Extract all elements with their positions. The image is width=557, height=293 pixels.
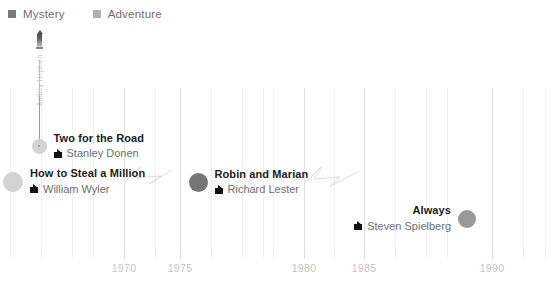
timeline-event-two-for-the-road[interactable]: Two for the RoadStanley Donen bbox=[32, 132, 145, 161]
axis-tick-label: 1975 bbox=[168, 262, 193, 274]
event-title: Always bbox=[412, 204, 451, 218]
event-bubble[interactable] bbox=[458, 210, 476, 228]
axis-tick bbox=[41, 250, 42, 257]
zigzag-connector-2 bbox=[304, 164, 364, 194]
timeline-chart: MysteryAdventure Audrey Hepburn Two for … bbox=[0, 0, 557, 293]
timeline-event-always[interactable]: AlwaysSteven Spielberg bbox=[354, 204, 476, 233]
axis-tick bbox=[93, 250, 94, 257]
event-bubble-wrap bbox=[32, 139, 47, 154]
axis-tick bbox=[10, 250, 11, 257]
legend-label: Adventure bbox=[108, 8, 162, 20]
axis-tick bbox=[334, 250, 335, 257]
axis-tick-label: 1985 bbox=[352, 262, 377, 274]
event-stem bbox=[39, 96, 40, 139]
event-director-name: Richard Lester bbox=[228, 182, 300, 196]
event-title: Robin and Marian bbox=[215, 168, 309, 182]
event-director-name: William Wyler bbox=[43, 182, 110, 196]
event-title: Two for the Road bbox=[54, 132, 145, 146]
square-swatch-icon bbox=[93, 10, 101, 18]
legend-label: Mystery bbox=[23, 8, 65, 20]
event-director-name: Stanley Donen bbox=[67, 146, 139, 160]
gridline bbox=[523, 88, 524, 250]
lighthouse-marker-icon bbox=[35, 30, 44, 49]
chart-legend: MysteryAdventure bbox=[8, 8, 190, 20]
axis-tick bbox=[523, 250, 524, 257]
axis-tick bbox=[545, 250, 546, 257]
event-bubble[interactable] bbox=[189, 173, 208, 192]
event-director: William Wyler bbox=[30, 182, 110, 196]
movie-camera-icon bbox=[215, 185, 224, 194]
gridline bbox=[545, 88, 546, 250]
axis-tick-label: 1980 bbox=[292, 262, 317, 274]
event-director: Stanley Donen bbox=[54, 146, 139, 160]
axis-tick-label: 1970 bbox=[112, 262, 137, 274]
axis-tick bbox=[211, 250, 212, 257]
axis-tick bbox=[72, 250, 73, 257]
timeline-event-how-to-steal-a-million[interactable]: How to Steal a MillionWilliam Wyler bbox=[3, 167, 145, 196]
square-swatch-icon bbox=[8, 10, 16, 18]
axis-tick bbox=[180, 250, 181, 259]
x-axis: 19701975198019851990 bbox=[0, 250, 557, 293]
axis-tick-label: 1990 bbox=[480, 262, 505, 274]
legend-item-mystery[interactable]: Mystery bbox=[8, 8, 65, 20]
event-bubble[interactable] bbox=[3, 172, 23, 192]
movie-camera-icon bbox=[54, 149, 63, 158]
axis-tick bbox=[426, 250, 427, 257]
axis-tick bbox=[242, 250, 243, 257]
event-bubble-center-dot bbox=[38, 145, 40, 147]
movie-camera-icon bbox=[354, 221, 363, 230]
event-text: How to Steal a MillionWilliam Wyler bbox=[30, 167, 145, 196]
event-title: How to Steal a Million bbox=[30, 167, 145, 181]
event-bubble-wrap bbox=[3, 172, 23, 192]
axis-tick bbox=[155, 250, 156, 257]
event-bubble-wrap bbox=[189, 173, 208, 192]
axis-tick bbox=[492, 250, 493, 259]
axis-tick bbox=[447, 250, 448, 257]
event-text: Robin and MarianRichard Lester bbox=[215, 168, 309, 197]
event-director: Richard Lester bbox=[215, 182, 300, 196]
legend-item-adventure[interactable]: Adventure bbox=[93, 8, 162, 20]
movie-camera-icon bbox=[30, 184, 39, 193]
axis-tick bbox=[364, 250, 365, 259]
axis-tick bbox=[263, 250, 264, 257]
axis-tick bbox=[395, 250, 396, 257]
event-bubble-wrap bbox=[458, 210, 476, 228]
timeline-event-robin-and-marian[interactable]: Robin and MarianRichard Lester bbox=[189, 168, 309, 197]
event-text: Two for the RoadStanley Donen bbox=[54, 132, 145, 161]
axis-tick bbox=[124, 250, 125, 259]
gridline bbox=[492, 88, 493, 250]
event-text: AlwaysSteven Spielberg bbox=[354, 204, 451, 233]
axis-tick bbox=[304, 250, 305, 259]
event-director: Steven Spielberg bbox=[354, 219, 451, 233]
event-director-name: Steven Spielberg bbox=[367, 219, 451, 233]
axis-tick bbox=[273, 250, 274, 257]
